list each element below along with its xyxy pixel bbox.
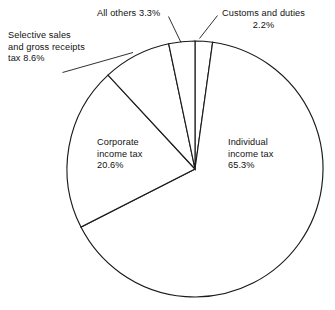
slice-label-customs-and-duties: Customs and duties 2.2% [222, 8, 305, 31]
slice-label-all-others: All others 3.3% [97, 8, 160, 20]
slice-label-selective-sales: Selective sales and gross receipts tax 8… [8, 30, 85, 65]
slice-label-corporate-income-tax: Corporate income tax 20.6% [97, 137, 142, 172]
leader-line-customs [200, 16, 218, 39]
slice-label-individual-income-tax: Individual income tax 65.3% [228, 137, 273, 172]
pie-chart: Customs and duties 2.2%Individual income… [0, 0, 335, 310]
leader-line-all-others [169, 17, 182, 43]
